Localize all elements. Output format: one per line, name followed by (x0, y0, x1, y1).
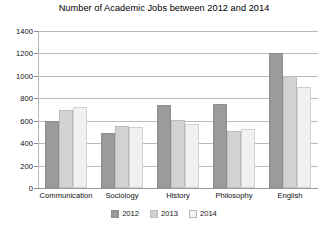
gridline (38, 188, 318, 189)
x-tick-label: Philosophy (215, 191, 252, 200)
legend-label: 2012 (122, 209, 139, 218)
y-tick-label: 1400 (1, 27, 33, 36)
x-tick-label: History (166, 191, 190, 200)
plot-area (38, 31, 318, 188)
legend-label: 2013 (161, 209, 178, 218)
y-tick-label: 1000 (1, 71, 33, 80)
bar-group (269, 31, 311, 188)
y-tick-label: 200 (1, 161, 33, 170)
legend-label: 2014 (200, 209, 217, 218)
legend-item-2013[interactable]: 2013 (150, 209, 178, 218)
legend-swatch-2014 (189, 210, 197, 218)
y-tick-label: 800 (1, 94, 33, 103)
bar-2012-philosophy (213, 104, 227, 188)
legend-item-2012[interactable]: 2012 (111, 209, 139, 218)
x-tick-label: Sociology (106, 191, 139, 200)
y-tick-label: 0 (1, 184, 33, 193)
y-tick-label: 600 (1, 116, 33, 125)
bar-2013-philosophy (227, 131, 241, 188)
chart-legend: 201220132014 (0, 209, 328, 218)
x-tick-label: Communication (40, 191, 93, 200)
bar-2014-philosophy (241, 129, 255, 188)
bar-2012-english (269, 53, 283, 188)
bar-2013-communication (59, 110, 73, 189)
bar-2014-english (297, 87, 311, 188)
chart-title: Number of Academic Jobs between 2012 and… (0, 3, 328, 13)
bar-2014-communication (73, 107, 87, 188)
bar-2014-sociology (129, 127, 143, 188)
bar-group (157, 31, 199, 188)
bar-2013-english (283, 76, 297, 188)
y-tick-label: 1200 (1, 49, 33, 58)
legend-swatch-2012 (111, 210, 119, 218)
bar-2013-sociology (115, 126, 129, 188)
bar-2012-communication (45, 121, 59, 188)
bar-2013-history (171, 120, 185, 188)
bar-chart: Number of Academic Jobs between 2012 and… (0, 0, 328, 232)
bar-2012-sociology (101, 133, 115, 188)
bar-group (213, 31, 255, 188)
legend-item-2014[interactable]: 2014 (189, 209, 217, 218)
x-axis-labels: CommunicationSociologyHistoryPhilosophyE… (38, 191, 318, 205)
bar-group (45, 31, 87, 188)
y-axis: 0200400600800100012001400 (0, 31, 33, 188)
x-tick-label: English (278, 191, 303, 200)
legend-swatch-2013 (150, 210, 158, 218)
bar-2014-history (185, 124, 199, 188)
bar-group (101, 31, 143, 188)
y-tick-label: 400 (1, 139, 33, 148)
bar-2012-history (157, 105, 171, 188)
